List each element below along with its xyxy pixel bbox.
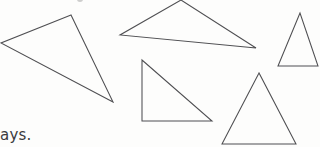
cut-off-word-fragment: ays. xyxy=(0,128,31,143)
text-layer: ays. xyxy=(0,0,320,147)
scanned-page: ays. xyxy=(0,0,320,147)
faint-smudge-mark-icon xyxy=(77,0,83,2)
